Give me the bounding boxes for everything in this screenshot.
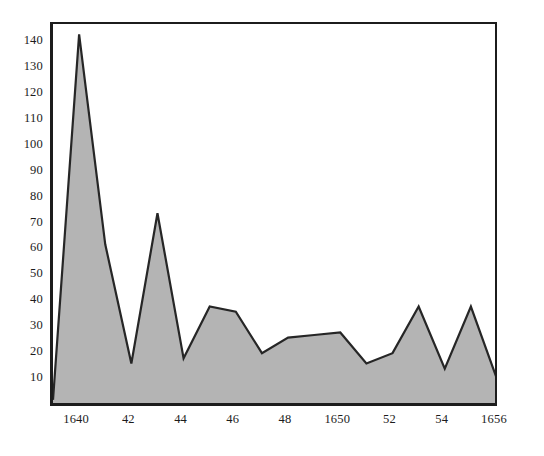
plot-area bbox=[53, 24, 495, 403]
y-tick-label: 80 bbox=[30, 188, 43, 203]
chart-figure: NUMBER OF TOWN ORDERS 102030405060708090… bbox=[0, 0, 544, 456]
x-tick-label: 1656 bbox=[481, 412, 507, 427]
y-tick-label: 30 bbox=[30, 318, 43, 333]
x-tick-label: 44 bbox=[174, 412, 187, 427]
y-axis: 102030405060708090100110120130140 bbox=[0, 0, 46, 456]
x-tick-label: 48 bbox=[279, 412, 292, 427]
y-tick-label: 60 bbox=[30, 240, 43, 255]
y-tick-label: 120 bbox=[24, 84, 43, 99]
y-tick-label: 100 bbox=[24, 136, 43, 151]
area-series bbox=[53, 24, 495, 403]
y-tick-label: 70 bbox=[30, 214, 43, 229]
x-tick-label: 52 bbox=[383, 412, 396, 427]
area-polygon bbox=[53, 34, 495, 403]
plot-frame bbox=[50, 22, 497, 406]
x-tick-label: 1650 bbox=[324, 412, 350, 427]
y-tick-label: 140 bbox=[24, 33, 43, 48]
x-tick-label: 42 bbox=[122, 412, 135, 427]
x-tick-label: 54 bbox=[435, 412, 448, 427]
x-tick-label: 46 bbox=[226, 412, 239, 427]
y-tick-label: 110 bbox=[24, 110, 43, 125]
y-tick-label: 40 bbox=[30, 292, 43, 307]
x-tick-label: 1640 bbox=[63, 412, 89, 427]
y-tick-label: 130 bbox=[24, 59, 43, 74]
x-axis: 164042444648165052541656 bbox=[0, 412, 544, 440]
y-tick-label: 50 bbox=[30, 266, 43, 281]
y-tick-label: 90 bbox=[30, 162, 43, 177]
y-tick-label: 20 bbox=[30, 344, 43, 359]
y-tick-label: 10 bbox=[30, 370, 43, 385]
